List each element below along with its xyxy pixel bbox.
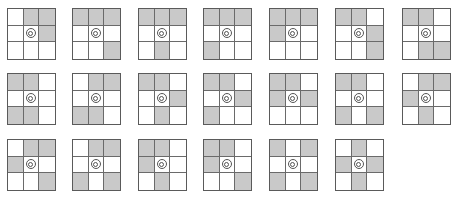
shaded-cell bbox=[170, 91, 186, 108]
empty-cell bbox=[139, 107, 155, 124]
shaded-cell bbox=[104, 9, 120, 26]
shaded-cell bbox=[220, 74, 236, 91]
shaded-cell bbox=[73, 9, 89, 26]
shaded-cell bbox=[434, 42, 450, 59]
shaded-cell bbox=[286, 74, 302, 91]
empty-cell bbox=[403, 42, 419, 59]
shaded-cell bbox=[24, 74, 40, 91]
shaded-cell bbox=[301, 140, 317, 157]
pattern-grid-5 bbox=[269, 8, 318, 60]
shaded-cell bbox=[403, 9, 419, 26]
empty-cell bbox=[73, 140, 89, 157]
shaded-cell bbox=[204, 140, 220, 157]
double-ring-icon bbox=[421, 28, 431, 38]
shaded-cell bbox=[8, 107, 24, 124]
empty-cell bbox=[8, 9, 24, 26]
empty-cell bbox=[367, 173, 383, 190]
double-ring-icon bbox=[91, 93, 101, 103]
shaded-cell bbox=[336, 157, 352, 174]
double-ring-icon bbox=[157, 28, 167, 38]
pattern-grid-11 bbox=[203, 73, 252, 125]
empty-cell bbox=[39, 42, 55, 59]
empty-cell bbox=[367, 74, 383, 91]
empty-cell bbox=[139, 173, 155, 190]
shaded-cell bbox=[403, 91, 419, 108]
double-ring-icon bbox=[26, 28, 36, 38]
shaded-cell bbox=[419, 9, 435, 26]
center-cell bbox=[155, 157, 171, 174]
empty-cell bbox=[73, 74, 89, 91]
empty-cell bbox=[104, 26, 120, 43]
shaded-cell bbox=[204, 107, 220, 124]
empty-cell bbox=[301, 157, 317, 174]
pattern-grid-16 bbox=[72, 139, 121, 191]
pattern-grid-2 bbox=[72, 8, 121, 60]
shaded-cell bbox=[39, 140, 55, 157]
empty-cell bbox=[8, 42, 24, 59]
double-ring-icon bbox=[354, 28, 364, 38]
shaded-cell bbox=[204, 157, 220, 174]
pattern-grid-18 bbox=[203, 139, 252, 191]
pattern-grid-8 bbox=[7, 73, 56, 125]
empty-cell bbox=[286, 107, 302, 124]
shaded-cell bbox=[73, 107, 89, 124]
pattern-grid-1 bbox=[7, 8, 56, 60]
empty-cell bbox=[73, 157, 89, 174]
center-cell bbox=[155, 91, 171, 108]
shaded-cell bbox=[139, 74, 155, 91]
shaded-cell bbox=[139, 9, 155, 26]
empty-cell bbox=[336, 91, 352, 108]
shaded-cell bbox=[89, 9, 105, 26]
shaded-cell bbox=[352, 74, 368, 91]
empty-cell bbox=[220, 173, 236, 190]
center-cell bbox=[419, 26, 435, 43]
shaded-cell bbox=[89, 74, 105, 91]
shaded-cell bbox=[235, 9, 251, 26]
empty-cell bbox=[235, 107, 251, 124]
double-ring-icon bbox=[157, 93, 167, 103]
pattern-grid-13 bbox=[335, 73, 384, 125]
empty-cell bbox=[367, 9, 383, 26]
empty-cell bbox=[434, 107, 450, 124]
shaded-cell bbox=[155, 74, 171, 91]
pattern-grid-3 bbox=[138, 8, 187, 60]
empty-cell bbox=[220, 42, 236, 59]
center-cell bbox=[155, 26, 171, 43]
empty-cell bbox=[235, 157, 251, 174]
shaded-cell bbox=[104, 74, 120, 91]
shaded-cell bbox=[419, 107, 435, 124]
empty-cell bbox=[301, 74, 317, 91]
shaded-cell bbox=[104, 140, 120, 157]
shaded-cell bbox=[367, 107, 383, 124]
pattern-grid-12 bbox=[269, 73, 318, 125]
double-ring-icon bbox=[26, 93, 36, 103]
double-ring-icon bbox=[288, 28, 298, 38]
center-cell bbox=[352, 91, 368, 108]
shaded-cell bbox=[204, 42, 220, 59]
shaded-cell bbox=[270, 26, 286, 43]
empty-cell bbox=[235, 74, 251, 91]
empty-cell bbox=[270, 157, 286, 174]
empty-cell bbox=[434, 91, 450, 108]
empty-cell bbox=[352, 107, 368, 124]
empty-cell bbox=[336, 26, 352, 43]
empty-cell bbox=[434, 9, 450, 26]
empty-cell bbox=[204, 26, 220, 43]
double-ring-icon bbox=[91, 159, 101, 169]
empty-cell bbox=[403, 74, 419, 91]
empty-cell bbox=[336, 173, 352, 190]
shaded-cell bbox=[139, 157, 155, 174]
empty-cell bbox=[89, 173, 105, 190]
empty-cell bbox=[8, 173, 24, 190]
empty-cell bbox=[24, 42, 40, 59]
center-cell bbox=[89, 157, 105, 174]
empty-cell bbox=[367, 91, 383, 108]
shaded-cell bbox=[270, 91, 286, 108]
empty-cell bbox=[8, 91, 24, 108]
shaded-cell bbox=[104, 42, 120, 59]
shaded-cell bbox=[8, 74, 24, 91]
empty-cell bbox=[39, 107, 55, 124]
shaded-cell bbox=[352, 140, 368, 157]
empty-cell bbox=[301, 26, 317, 43]
shaded-cell bbox=[367, 157, 383, 174]
